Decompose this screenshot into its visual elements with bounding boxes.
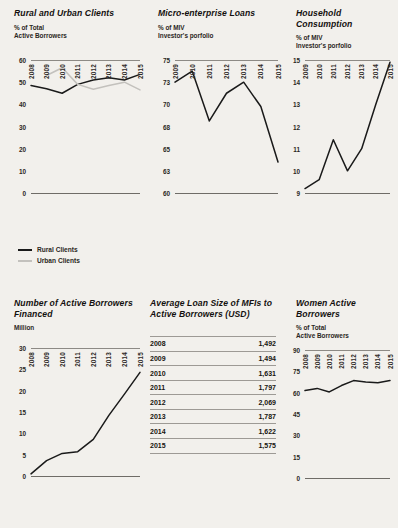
x-axis-tick-label: 2015 — [137, 64, 144, 79]
subtitle-line-1: % of MIV — [158, 24, 280, 32]
chart-micro-enterprise-loans: 6063656870737520092010201120122013201420… — [158, 56, 280, 231]
chart-legend: Rural Clients Urban Clients — [18, 246, 80, 268]
subtitle-line-1: % of Total — [14, 24, 142, 32]
x-axis-tick-label: 2008 — [28, 64, 35, 79]
x-axis-tick-label: 2014 — [372, 64, 379, 79]
x-axis-tick-label: 2009 — [172, 64, 179, 79]
chart-plot-area — [158, 56, 280, 231]
table-cell-value: 2,069 — [209, 395, 276, 410]
table-cell-year: 2012 — [150, 395, 209, 410]
x-axis-tick-label: 2013 — [105, 352, 112, 367]
x-axis-tick-label: 2009 — [43, 352, 50, 367]
x-axis-tick-label: 2015 — [387, 354, 394, 369]
panel-subtitle: Million — [14, 324, 142, 332]
chart-plot-area — [288, 346, 392, 516]
x-axis-tick-label: 2010 — [316, 64, 323, 79]
table-row: 20122,069 — [150, 395, 276, 410]
x-axis-tick-label: 2012 — [90, 352, 97, 367]
table-row: 20111,797 — [150, 380, 276, 395]
x-axis-tick-label: 2013 — [358, 64, 365, 79]
table-row: 20131,787 — [150, 409, 276, 424]
x-axis-tick-label: 2011 — [74, 352, 81, 367]
series-line-women-active-borrowers — [305, 381, 390, 392]
x-axis-tick-label: 2014 — [257, 64, 264, 79]
subtitle-line-2: Active Borrowers — [296, 332, 396, 340]
table-cell-year: 2014 — [150, 424, 209, 439]
panel-title-line-2: Financed — [14, 309, 142, 320]
x-axis-tick-label: 2012 — [344, 64, 351, 79]
subtitle-line-1: % of Total — [296, 324, 396, 332]
table-cell-value: 1,575 — [209, 439, 276, 454]
legend-item-urban: Urban Clients — [18, 257, 80, 264]
panel-title-line-1: Average Loan Size of MFIs to — [150, 298, 276, 309]
table-cell-year: 2008 — [150, 337, 209, 352]
legend-swatch-urban-icon — [18, 260, 32, 262]
subtitle-line-1: % of MIV — [296, 34, 396, 42]
x-axis-tick-label: 2014 — [121, 352, 128, 367]
panel-title: Micro-enterprise Loans — [158, 8, 280, 19]
chart-rural-urban-clients: 0102030405060200820092010201120122013201… — [14, 56, 142, 231]
table-row: 20091,494 — [150, 351, 276, 366]
x-axis-tick-label: 2012 — [350, 354, 357, 369]
panel-subtitle: % of Total Active Borrowers — [296, 324, 396, 340]
table-cell-value: 1,787 — [209, 409, 276, 424]
x-axis-tick-label: 2012 — [90, 64, 97, 79]
chart-plot-area — [14, 56, 142, 231]
legend-item-rural: Rural Clients — [18, 246, 80, 253]
x-axis-tick-label: 2011 — [338, 354, 345, 369]
x-axis-tick-label: 2011 — [74, 64, 81, 79]
table-cell-year: 2013 — [150, 409, 209, 424]
x-axis-tick-label: 2015 — [275, 64, 282, 79]
legend-label-urban: Urban Clients — [37, 257, 80, 264]
panel-rural-urban-clients: Rural and Urban Clients % of Total Activ… — [14, 8, 142, 283]
subtitle-line-1: Million — [14, 324, 142, 332]
panel-household-consumption: Household Consumption % of MIV Investor'… — [296, 8, 396, 258]
average-loan-size-table: 20081,49220091,49420101,63120111,7972012… — [150, 336, 276, 454]
table-cell-value: 1,631 — [209, 366, 276, 381]
x-axis-tick-label: 2009 — [302, 64, 309, 79]
x-axis-tick-label: 2012 — [223, 64, 230, 79]
table-cell-value: 1,494 — [209, 351, 276, 366]
x-axis-tick-label: 2013 — [240, 64, 247, 79]
chart-household-consumption: 9101112131415200920102011201220132014201… — [288, 56, 392, 231]
x-axis-tick-label: 2010 — [189, 64, 196, 79]
series-line-household-consumption — [305, 62, 390, 188]
table-row: 20081,492 — [150, 337, 276, 352]
x-axis-tick-label: 2013 — [362, 354, 369, 369]
panel-subtitle: % of MIV Investor's porfolio — [296, 34, 396, 50]
panel-micro-enterprise-loans: Micro-enterprise Loans % of MIV Investor… — [158, 8, 280, 258]
table-cell-value: 1,622 — [209, 424, 276, 439]
x-axis-tick-label: 2010 — [59, 352, 66, 367]
subtitle-line-2: Investor's porfolio — [158, 32, 280, 40]
panel-title: Rural and Urban Clients — [14, 8, 142, 19]
series-line-micro-enterprise-loans — [175, 71, 278, 162]
dashboard: Rural and Urban Clients % of Total Activ… — [0, 0, 398, 528]
subtitle-line-2: Active Borrowers — [14, 32, 142, 40]
x-axis-tick-label: 2008 — [28, 352, 35, 367]
table-row: 20141,622 — [150, 424, 276, 439]
table-cell-value: 1,492 — [209, 337, 276, 352]
chart-plot-area — [288, 56, 392, 231]
subtitle-line-2: Investor's porfolio — [296, 42, 396, 50]
x-axis-tick-label: 2015 — [387, 64, 394, 79]
table-row: 20101,631 — [150, 366, 276, 381]
panel-subtitle: % of MIV Investor's porfolio — [158, 24, 280, 40]
panel-title-line-2: Active Borrowers (USD) — [150, 309, 276, 320]
x-axis-tick-label: 2015 — [137, 352, 144, 367]
chart-active-borrowers-financed: 0510152025302008200920102011201220132014… — [14, 344, 142, 514]
x-axis-tick-label: 2010 — [326, 354, 333, 369]
x-axis-tick-label: 2011 — [330, 64, 337, 79]
legend-swatch-rural-icon — [18, 249, 32, 251]
chart-plot-area — [14, 344, 142, 514]
x-axis-tick-label: 2009 — [314, 354, 321, 369]
panel-title: Number of Active Borrowers Financed — [14, 298, 142, 319]
x-axis-tick-label: 2013 — [105, 64, 112, 79]
x-axis-tick-label: 2009 — [43, 64, 50, 79]
table-row: 20151,575 — [150, 439, 276, 454]
table-cell-year: 2015 — [150, 439, 209, 454]
panel-women-active-borrowers: Women Active Borrowers % of Total Active… — [296, 298, 396, 523]
panel-title: Women Active Borrowers — [296, 298, 396, 319]
table-cell-year: 2011 — [150, 380, 209, 395]
legend-label-rural: Rural Clients — [37, 246, 78, 253]
x-axis-tick-label: 2008 — [302, 354, 309, 369]
